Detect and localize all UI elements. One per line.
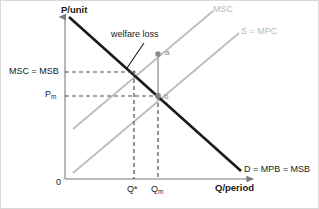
externality-diagram: P/unit Q/period 0 MSC = MSB Pm Q* Qm wel… xyxy=(0,0,319,209)
point-b-label: b xyxy=(164,92,168,102)
demand-curve-label: D = MPB = MSB xyxy=(244,164,310,174)
demand-curve xyxy=(69,17,241,171)
point-a-label: a xyxy=(165,48,169,58)
y-tick-pm: Pm xyxy=(45,89,56,99)
y-tick-msc-msb: MSC = MSB xyxy=(9,66,59,76)
y-tick-pm-sub: m xyxy=(51,93,56,100)
origin-label: 0 xyxy=(56,177,61,187)
point-b-marker xyxy=(155,93,161,99)
social-optimum-marker xyxy=(132,70,135,73)
welfare-loss-leader-line xyxy=(127,43,144,68)
x-tick-qm-sub: m xyxy=(158,188,163,195)
welfare-loss-label: welfare loss xyxy=(111,29,159,39)
x-tick-qm-text: Q xyxy=(151,184,158,194)
x-axis-title: Q/period xyxy=(215,183,254,193)
point-a-marker xyxy=(155,51,160,56)
mpc-curve-label: S = MPC xyxy=(241,26,277,36)
x-tick-qm: Qm xyxy=(151,184,163,194)
msc-curve-label: MSC xyxy=(213,4,233,14)
x-tick-q-star: Q* xyxy=(127,184,138,194)
y-axis-title: P/unit xyxy=(61,5,87,15)
